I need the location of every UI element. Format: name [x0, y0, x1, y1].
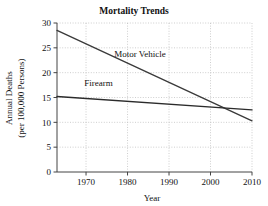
y-tick-label: 5 — [47, 142, 52, 152]
series-label: Motor Vehicle — [114, 49, 166, 59]
mortality-trends-chart: Mortality Trends 05101520253019701980199… — [0, 0, 268, 206]
x-tick-label: 2000 — [202, 177, 221, 187]
series-label: Firearm — [84, 78, 113, 88]
y-tick-label: 10 — [42, 118, 52, 128]
chart-title: Mortality Trends — [99, 6, 169, 16]
x-tick-label: 2010 — [243, 177, 262, 187]
x-tick-label: 1990 — [160, 177, 179, 187]
y-axis-label-line2: (per 100,000 Persons) — [16, 58, 26, 137]
y-tick-label: 25 — [42, 43, 52, 53]
y-tick-label: 20 — [42, 68, 52, 78]
y-tick-label: 0 — [47, 167, 52, 177]
y-tick-label: 30 — [42, 18, 52, 28]
y-axis-label-line1: Annual Deaths — [4, 71, 14, 125]
x-tick-label: 1980 — [119, 177, 138, 187]
x-tick-label: 1970 — [77, 177, 96, 187]
chart-background — [0, 0, 268, 206]
x-axis-label: Year — [144, 193, 161, 203]
y-tick-label: 15 — [42, 93, 52, 103]
chart-canvas: Mortality Trends 05101520253019701980199… — [0, 0, 268, 206]
